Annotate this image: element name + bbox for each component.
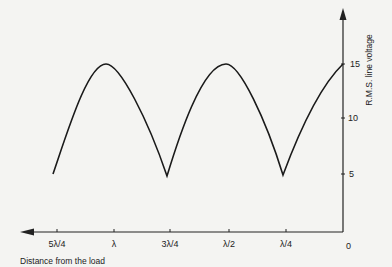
x-tick-3lambda-4: 3λ/4 xyxy=(161,239,178,249)
y-tick-10: 10 xyxy=(348,113,358,123)
voltage-curve xyxy=(53,64,343,176)
standing-wave-chart: 15 10 5 0 5λ/4 λ 3λ/4 λ/2 λ/4 R.M.S. lin… xyxy=(0,0,392,267)
x-tick-0: 0 xyxy=(346,241,351,251)
y-axis-arrow-icon xyxy=(340,8,347,20)
x-tick-lambda: λ xyxy=(112,239,117,249)
x-axis-title: Distance from the load xyxy=(20,256,105,266)
y-tick-5: 5 xyxy=(349,169,354,179)
y-tick-15: 15 xyxy=(350,59,360,69)
x-axis-arrow-icon xyxy=(20,229,34,236)
x-tick-5lambda-4: 5λ/4 xyxy=(48,239,65,249)
y-axis-title: R.M.S. line voltage xyxy=(364,34,374,106)
x-tick-lambda-2: λ/2 xyxy=(223,239,235,249)
x-tick-lambda-4: λ/4 xyxy=(280,239,292,249)
